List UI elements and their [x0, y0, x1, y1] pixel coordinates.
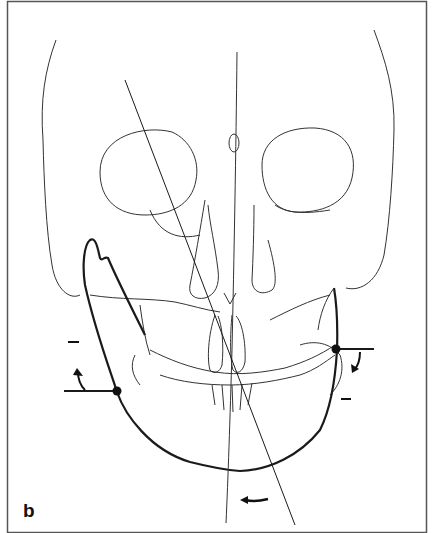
figure-border	[8, 2, 427, 533]
nasal-right-outline	[252, 205, 275, 293]
chin-rotation-arrowhead-icon	[240, 496, 248, 504]
nasal-left-outline	[190, 200, 219, 298]
chin-rotation-arrow-icon	[246, 499, 268, 501]
panel-label: b	[23, 500, 35, 522]
glabella-oval	[229, 134, 239, 152]
skull-diagram	[0, 0, 436, 533]
right-orbit	[262, 128, 353, 212]
mandible-outline	[84, 239, 145, 392]
left-rotation-arrowhead-icon	[73, 368, 83, 376]
left-zygomatic-line	[90, 295, 220, 312]
mandible-lower-border	[117, 288, 337, 471]
upper-incisor-left	[208, 315, 222, 372]
left-gonion-point	[113, 387, 122, 396]
right-ramus-inner	[318, 288, 334, 330]
anterior-nasal-spine-mark	[224, 293, 236, 304]
facial-midline	[226, 52, 237, 523]
left-molars	[132, 355, 140, 385]
oblique-axis-line	[125, 80, 295, 525]
cranium-left-outline	[42, 40, 80, 296]
right-gonion-point	[332, 345, 341, 354]
